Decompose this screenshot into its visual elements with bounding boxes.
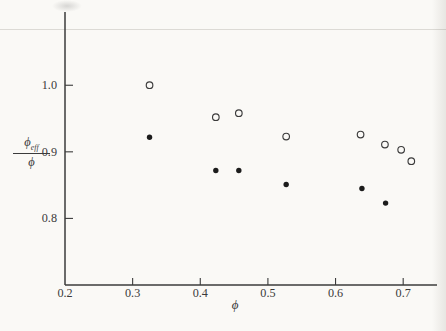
data-point-filled: [283, 182, 288, 187]
y-tick-label: 1.0: [42, 78, 57, 92]
y-axis-label: ϕeff ϕ: [13, 135, 50, 170]
data-point-filled: [383, 200, 388, 205]
x-tick-label: 0.7: [396, 286, 411, 300]
page-edge-shading: [432, 0, 446, 331]
x-tick-label: 0.6: [328, 286, 343, 300]
y-axis-label-numerator: ϕeff: [13, 135, 50, 154]
data-point-open: [357, 131, 364, 138]
x-tick-label: 0.2: [57, 286, 72, 300]
scatter-plot: 0.20.30.40.50.60.70.80.91.0: [0, 0, 446, 331]
data-point-open: [398, 147, 405, 154]
data-point-filled: [359, 186, 364, 191]
data-point-open: [283, 133, 290, 140]
x-tick-label: 0.5: [260, 286, 275, 300]
data-point-filled: [213, 168, 218, 173]
data-point-open: [146, 82, 153, 89]
x-tick-label: 0.4: [193, 286, 208, 300]
data-point-open: [213, 114, 220, 121]
data-point-open: [236, 110, 243, 117]
scanned-figure-page: 0.20.30.40.50.60.70.80.91.0 ϕeff ϕ ϕ: [0, 0, 446, 331]
data-point-filled: [147, 134, 152, 139]
x-tick-label: 0.3: [125, 286, 140, 300]
data-point-open: [408, 158, 415, 165]
data-point-open: [382, 141, 389, 148]
y-tick-label: 0.8: [42, 211, 57, 225]
x-axis-label: ϕ: [222, 297, 248, 313]
y-axis-label-denominator: ϕ: [13, 154, 50, 170]
data-point-filled: [236, 168, 241, 173]
